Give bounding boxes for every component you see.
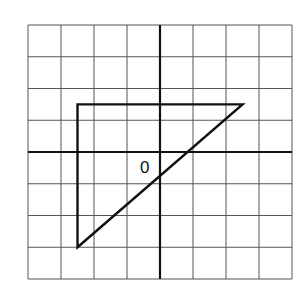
origin-label: 0 <box>140 158 149 178</box>
coordinate-axes <box>28 25 292 279</box>
coordinate-grid-diagram <box>0 0 303 290</box>
